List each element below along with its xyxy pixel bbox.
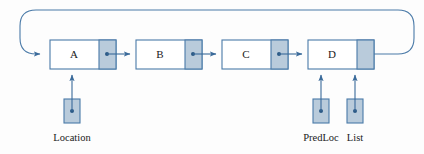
node-b[interactable]: B — [136, 40, 202, 69]
node-c[interactable]: C — [222, 40, 288, 69]
node-a-label: A — [70, 48, 78, 60]
node-d[interactable]: D — [308, 40, 374, 69]
var-list-label: List — [347, 132, 363, 143]
var-location[interactable]: Location — [53, 75, 91, 143]
linked-list-diagram: A B C — [0, 0, 424, 154]
node-b-label: B — [156, 48, 163, 60]
var-list[interactable]: List — [347, 75, 363, 143]
node-a[interactable]: A — [50, 40, 116, 69]
var-predloc[interactable]: PredLoc — [303, 75, 339, 143]
var-location-label: Location — [53, 132, 91, 143]
node-c-label: C — [242, 48, 249, 60]
node-d-pointer-cell — [357, 40, 374, 69]
diagram-canvas: A B C — [0, 0, 424, 154]
var-predloc-label: PredLoc — [303, 132, 339, 143]
node-d-label: D — [328, 48, 336, 60]
